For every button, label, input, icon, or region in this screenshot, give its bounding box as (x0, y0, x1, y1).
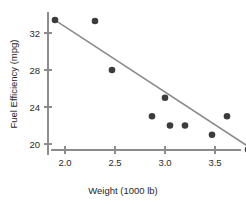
data-point (182, 122, 189, 129)
data-point (109, 67, 116, 74)
x-tick-label-2.5: 2.5 (108, 157, 121, 168)
data-point (245, 146, 246, 153)
x-axis (51, 146, 241, 154)
y-axis-title: Fuel Efficiency (mpg) (8, 39, 19, 128)
x-tick-label-3.5: 3.5 (208, 157, 221, 168)
regression-line-segment (55, 20, 246, 154)
y-tick-label-20: 20 (29, 139, 40, 150)
y-tick-label-24: 24 (29, 102, 40, 113)
data-point (224, 113, 231, 120)
data-point (209, 131, 216, 138)
data-point (162, 94, 169, 101)
scatter-chart: 202428322.02.53.03.5 Weight (1000 lb) Fu… (0, 0, 246, 204)
data-point (149, 113, 156, 120)
data-point (92, 18, 99, 25)
regression-line (55, 20, 246, 154)
y-tick-label-28: 28 (29, 65, 40, 76)
data-point (167, 122, 174, 129)
y-tick-label-32: 32 (29, 28, 40, 39)
chart-canvas: 202428322.02.53.03.5 Weight (1000 lb) Fu… (0, 0, 246, 204)
x-tick-label-3.0: 3.0 (158, 157, 171, 168)
x-axis-title: Weight (1000 lb) (88, 185, 158, 196)
axis-tick-labels: 202428322.02.53.03.5 (29, 28, 221, 169)
data-point (52, 17, 59, 24)
y-axis (44, 12, 52, 155)
x-tick-label-2.0: 2.0 (58, 157, 71, 168)
